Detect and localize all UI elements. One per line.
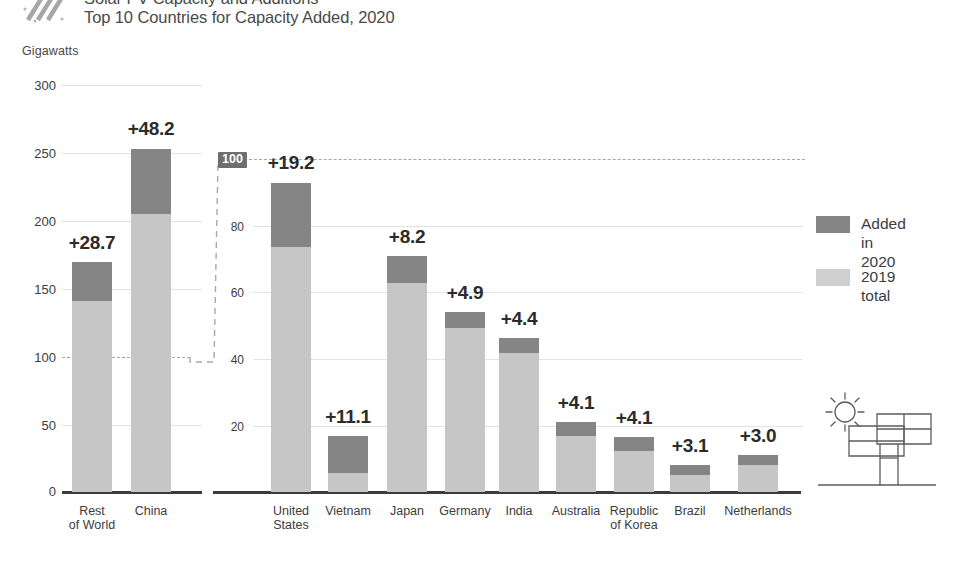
bar-australia[interactable]: [556, 422, 596, 492]
solar-panel-sun-icon: [818, 388, 948, 503]
magnification-badge-100: 100: [218, 152, 247, 168]
legend-label-2019-total: 2019 total: [861, 267, 895, 305]
legend-item-added-in-2020[interactable]: Added in 2020: [816, 214, 906, 271]
x-label-netherlands: Netherlands: [713, 504, 803, 518]
chart-canvas: Solar PV Capacity and Additions Top 10 C…: [0, 0, 958, 563]
legend-item-2019-total[interactable]: 2019 total: [816, 267, 895, 305]
bar-segment-added: [387, 256, 427, 283]
bar-segment-2019: [556, 436, 596, 492]
bar-segment-added: [614, 437, 654, 451]
bar-value-germany: +4.9: [425, 282, 505, 304]
bar-segment-2019: [271, 247, 311, 492]
bar-value-india: +4.4: [479, 308, 559, 330]
plot-area: 300 250 200 150 100 50 0 +28.7 +48.2 Res…: [0, 0, 958, 563]
legend-swatch-2019-icon: [816, 269, 850, 286]
bar-brazil[interactable]: [670, 465, 710, 492]
bar-united-states[interactable]: [271, 183, 311, 492]
legend-swatch-added-icon: [816, 216, 850, 233]
bar-india[interactable]: [499, 338, 539, 492]
inset-y-tick-60: 60: [218, 286, 244, 300]
bar-value-vietnam: +11.1: [308, 406, 388, 428]
inset-y-tick-80: 80: [218, 220, 244, 234]
bar-value-united-states: +19.2: [251, 152, 331, 174]
bar-segment-added: [670, 465, 710, 475]
bar-value-republic-of-korea: +4.1: [594, 407, 674, 429]
bar-segment-2019: [614, 451, 654, 492]
bar-vietnam[interactable]: [328, 436, 368, 492]
bar-value-netherlands: +3.0: [718, 425, 798, 447]
bar-segment-added: [499, 338, 539, 353]
bar-segment-added: [328, 436, 368, 473]
bar-republic-of-korea[interactable]: [614, 437, 654, 492]
bar-segment-added: [271, 183, 311, 247]
bar-segment-2019: [670, 475, 710, 492]
bar-segment-2019: [499, 353, 539, 492]
bar-segment-added: [738, 455, 778, 465]
bar-segment-2019: [445, 328, 485, 492]
bar-germany[interactable]: [445, 312, 485, 492]
legend-label-added-in-2020: Added in 2020: [861, 214, 906, 271]
inset-gridline-80: [253, 226, 803, 227]
inset-top-reference-line: [249, 159, 805, 160]
bar-netherlands[interactable]: [738, 455, 778, 492]
bar-segment-added: [556, 422, 596, 436]
bar-value-japan: +8.2: [367, 226, 447, 248]
inset-y-tick-40: 40: [218, 353, 244, 367]
inset-y-tick-20: 20: [218, 420, 244, 434]
bar-segment-2019: [328, 473, 368, 492]
bar-japan[interactable]: [387, 256, 427, 492]
bar-segment-2019: [387, 283, 427, 492]
bar-segment-2019: [738, 465, 778, 492]
inset-gridline-60: [253, 292, 803, 293]
